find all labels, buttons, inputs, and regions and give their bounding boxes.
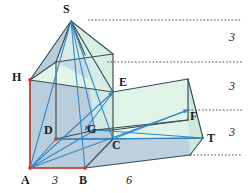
point-A-marker <box>28 166 32 170</box>
vertex-label-E: E <box>119 76 127 88</box>
dimension-label-bottom: 6 <box>126 174 132 186</box>
height-label-2: 3 <box>229 80 235 92</box>
vertex-label-T: T <box>207 132 215 144</box>
vertex-label-F: F <box>190 110 197 122</box>
solid-figure-svg <box>0 0 249 193</box>
point-B-marker <box>83 166 87 170</box>
geometry-figure-canvas: S H E F D G C T A B 3 6 3 3 3 <box>0 0 249 193</box>
vertex-label-G: G <box>87 123 96 135</box>
vertex-label-H: H <box>12 71 21 83</box>
vertex-label-A: A <box>21 174 30 186</box>
dimension-label-ab: 3 <box>52 174 58 186</box>
vertex-label-B: B <box>79 174 87 186</box>
vertex-label-C: C <box>112 139 121 151</box>
vertex-label-D: D <box>44 124 53 136</box>
point-H-marker <box>28 78 32 82</box>
height-label-1: 3 <box>229 31 235 43</box>
vertex-label-S: S <box>63 3 70 15</box>
point-D-marker <box>54 137 58 141</box>
height-label-3: 3 <box>229 126 235 138</box>
